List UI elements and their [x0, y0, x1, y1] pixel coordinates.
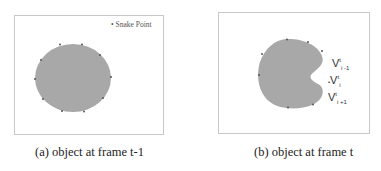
snake-point-marker: • — [111, 20, 114, 29]
label-v-i: •Vti — [328, 74, 340, 88]
label-v-i-minus-1: Vti -1 — [332, 57, 349, 71]
label-v-i-plus-1: Vti +1 — [328, 91, 347, 105]
legend-label: Snake Point — [116, 20, 152, 29]
legend-snake-point: • Snake Point — [111, 20, 152, 29]
caption-b: (b) object at frame t — [254, 145, 353, 160]
object-notched — [258, 39, 323, 109]
caption-a: (a) object at frame t-1 — [35, 145, 144, 160]
